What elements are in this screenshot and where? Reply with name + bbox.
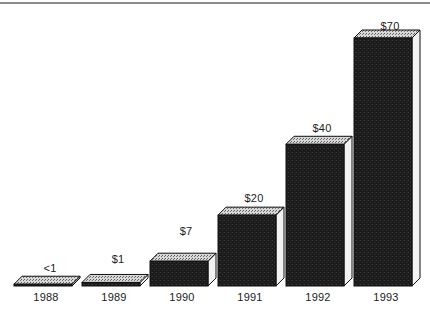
axis-label-1992: 1992 xyxy=(282,291,354,303)
bar-1988 xyxy=(14,276,80,286)
bar-front-face xyxy=(218,215,276,286)
bar-top-face xyxy=(150,253,216,261)
bar-1993 xyxy=(354,30,420,286)
value-label-1992: $40 xyxy=(286,122,358,134)
bar-top-face xyxy=(14,276,80,284)
value-label-1989: $1 xyxy=(82,253,154,265)
value-label-1990: $7 xyxy=(150,225,222,237)
chart-figure: <1 $1 $7 $20 $40 $70 1988 1989 1990 1991… xyxy=(0,0,430,319)
axis-label-1991: 1991 xyxy=(214,291,286,303)
bar-side-face xyxy=(276,207,284,286)
axis-label-1990: 1990 xyxy=(146,291,218,303)
bar-1990 xyxy=(150,253,216,286)
bar-top-face xyxy=(82,274,148,282)
bar-side-face xyxy=(344,136,352,286)
axis-label-1988: 1988 xyxy=(10,291,82,303)
axis-label-1989: 1989 xyxy=(78,291,150,303)
bar-front-face xyxy=(150,261,208,286)
bar-front-face xyxy=(14,284,72,286)
value-label-1991: $20 xyxy=(218,192,290,204)
axis-label-1993: 1993 xyxy=(350,291,422,303)
bar-1991 xyxy=(218,207,284,286)
bar-top-face xyxy=(218,207,284,215)
value-label-1988: <1 xyxy=(14,262,86,274)
bar-front-face xyxy=(82,282,140,286)
bar-top-face xyxy=(286,136,352,144)
bar-1992 xyxy=(286,136,352,286)
bar-1989 xyxy=(82,274,148,286)
bar-front-face xyxy=(286,144,344,286)
bar-front-face xyxy=(354,38,412,286)
bar-side-face xyxy=(412,30,420,286)
value-label-1993: $70 xyxy=(354,20,426,32)
